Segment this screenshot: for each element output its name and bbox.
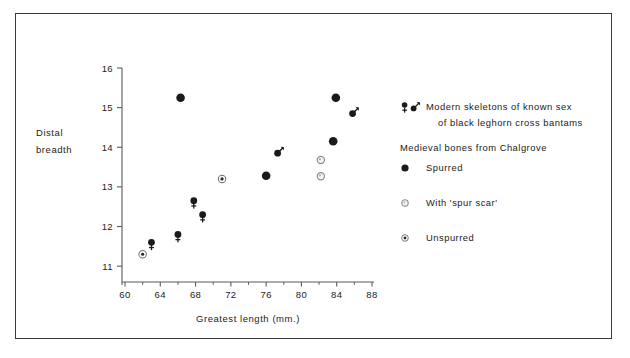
- data-point-female-symbol: [190, 197, 197, 208]
- data-point-filled-circle-marker: [176, 93, 185, 102]
- data-point-female-symbol: [148, 239, 155, 250]
- spurred-marker-swatch: [400, 161, 426, 174]
- y-axis-title-line1: Distal: [36, 124, 72, 141]
- legend-modern-line2: of black leghorn cross bantams: [438, 116, 605, 130]
- legend-item-spurred: Spurred: [400, 161, 605, 175]
- legend-spurred-label: Spurred: [426, 161, 463, 175]
- x-axis-tick-label: 84: [331, 289, 342, 300]
- data-point-open-circle-marker: [317, 156, 324, 163]
- x-axis-tick-label: 76: [260, 289, 271, 300]
- y-axis-tick-label: 14: [102, 142, 113, 153]
- data-point-female-symbol: [199, 211, 206, 222]
- series-open-circle-marker: [317, 156, 324, 179]
- legend-medieval-heading: Medieval bones from Chalgrove: [400, 142, 605, 153]
- data-point-filled-circle-marker: [329, 137, 338, 146]
- data-point-dotted-circle-marker: [218, 175, 225, 182]
- x-axis-tick-label: 88: [366, 289, 377, 300]
- x-axis-tick-label: 64: [155, 289, 166, 300]
- y-axis-tick-label: 11: [102, 261, 113, 272]
- data-point-dotted-circle-marker: [139, 251, 146, 258]
- legend-unspurred-label: Unspurred: [426, 231, 474, 245]
- x-axis-title: Greatest length (mm.): [196, 313, 300, 324]
- y-axis-tick-label: 13: [102, 181, 113, 192]
- legend: Modern skeletons of known sex of black l…: [400, 100, 605, 245]
- legend-modern-line1: Modern skeletons of known sex: [426, 100, 572, 114]
- y-axis-tick-label: 12: [102, 221, 113, 232]
- y-axis-tick-label: 15: [102, 102, 113, 113]
- legend-item-unspurred: Unspurred: [400, 231, 605, 245]
- open-circle-icon: [400, 197, 416, 209]
- data-point-filled-circle-marker: [262, 171, 271, 180]
- data-point-female-symbol: [175, 231, 182, 242]
- legend-sex-symbols: [400, 100, 426, 114]
- spur-scar-marker-swatch: [400, 196, 426, 209]
- data-point-male-symbol: [349, 107, 359, 117]
- y-axis-title: Distal breadth: [36, 124, 72, 158]
- series-filled-circle-marker: [176, 93, 340, 180]
- x-axis-tick-label: 72: [225, 289, 236, 300]
- data-points: [139, 93, 359, 258]
- legend-spur-scar-label: With 'spur scar': [426, 196, 498, 210]
- y-axis-tick-label: 16: [102, 63, 113, 74]
- series-female-symbol: [148, 197, 206, 250]
- data-point-filled-circle-marker: [332, 93, 341, 102]
- x-axis-tick-label: 80: [296, 289, 307, 300]
- y-axis-title-line2: breadth: [36, 141, 72, 158]
- data-point-male-symbol: [274, 147, 284, 157]
- female-male-symbol-pair: [400, 101, 426, 114]
- legend-item-spur-scar: With 'spur scar': [400, 196, 605, 210]
- series-male-symbol: [274, 107, 359, 157]
- unspurred-marker-swatch: [400, 231, 426, 244]
- data-point-open-circle-marker: [317, 173, 324, 180]
- x-axis-tick-label: 60: [119, 289, 130, 300]
- dotted-circle-icon: [400, 232, 416, 244]
- filled-circle-icon: [400, 162, 416, 174]
- legend-item-modern: Modern skeletons of known sex: [400, 100, 605, 114]
- x-axis-tick-label: 68: [190, 289, 201, 300]
